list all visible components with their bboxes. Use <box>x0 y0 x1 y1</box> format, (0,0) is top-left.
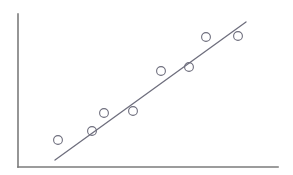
trend-line <box>55 22 246 160</box>
data-point-marker <box>234 32 243 41</box>
data-point-marker <box>202 33 211 42</box>
data-point-marker <box>100 109 109 118</box>
plot-canvas <box>0 0 293 175</box>
data-point-marker <box>157 67 166 76</box>
scatter-points-group <box>54 32 243 145</box>
data-point-marker <box>129 107 138 116</box>
scatter-plot-figure <box>0 0 293 175</box>
data-point-marker <box>54 136 63 145</box>
